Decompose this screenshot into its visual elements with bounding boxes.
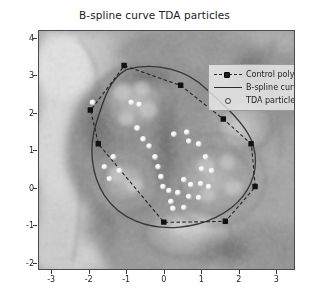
y-tick-mark — [33, 225, 37, 226]
x-tick-label: 0 — [161, 275, 166, 284]
y-tick-mark — [33, 263, 37, 264]
y-tick-mark — [33, 113, 37, 114]
x-tick-mark — [201, 270, 202, 274]
x-tick-mark — [89, 270, 90, 274]
legend-item-bspline-curve: B-spline curve — [213, 81, 295, 94]
y-tick-mark — [33, 38, 37, 39]
x-tick-mark — [276, 270, 277, 274]
x-tick-mark — [126, 270, 127, 274]
legend-item-control-polygon: Control polygon — [213, 68, 295, 81]
legend-item-tda-particles: TDA particles — [213, 94, 295, 107]
x-tick-label: -3 — [47, 275, 55, 284]
legend-label-control-polygon: Control polygon — [243, 70, 295, 79]
y-tick-mark — [33, 150, 37, 151]
x-tick-label: -2 — [85, 275, 93, 284]
control-polygon-key-icon — [213, 68, 243, 81]
y-tick-mark — [33, 75, 37, 76]
page-title: B-spline curve TDA particles — [0, 9, 309, 21]
x-tick-label: 3 — [274, 275, 279, 284]
matplotlib-figure: B-spline curve TDA particles — [0, 0, 309, 302]
legend: Control polygon B-spline curve TDA parti… — [208, 64, 295, 111]
legend-label-tda-particles: TDA particles — [243, 96, 295, 105]
y-tick-mark — [33, 188, 37, 189]
x-tick-mark — [164, 270, 165, 274]
plot-axes: Control polygon B-spline curve TDA parti… — [38, 30, 295, 270]
bspline-curve-key-icon — [213, 81, 243, 94]
y-axis-tick-labels: 43210-1-2 — [12, 0, 34, 302]
x-tick-mark — [51, 270, 52, 274]
x-tick-label: -1 — [122, 275, 130, 284]
x-axis-tick-labels: -3-2-10123 — [0, 275, 309, 291]
x-tick-label: 2 — [236, 275, 241, 284]
tda-particles-key-icon — [213, 94, 243, 107]
x-tick-label: 1 — [199, 275, 204, 284]
legend-label-bspline-curve: B-spline curve — [243, 83, 295, 92]
x-tick-mark — [239, 270, 240, 274]
